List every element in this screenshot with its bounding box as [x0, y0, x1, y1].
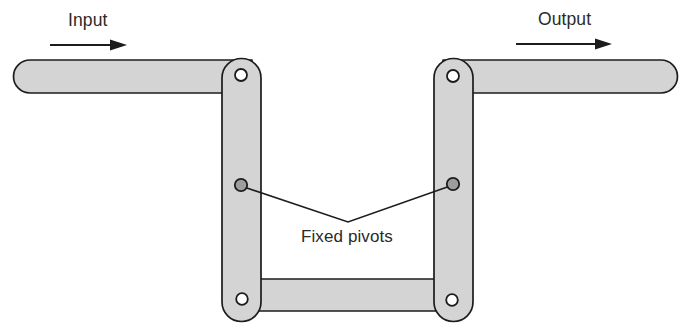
input-arrow-head	[110, 40, 127, 51]
linkage-diagram: Input Output Fixed pivots	[0, 0, 690, 334]
input-flow-arrow	[50, 40, 127, 51]
output-link	[443, 60, 678, 93]
pin-joints	[235, 69, 459, 306]
fixed-pivots-leader-line	[241, 185, 453, 222]
pin-joint-bottom-left-icon	[236, 293, 248, 305]
output-flow-arrow	[516, 39, 612, 50]
pin-joint-top-left-icon	[235, 69, 247, 81]
pin-joint-bottom-right-icon	[446, 294, 458, 306]
pin-joint-top-right-icon	[447, 70, 459, 82]
output-arrow-head	[595, 39, 612, 50]
fixed-pivots-label: Fixed pivots	[301, 228, 393, 245]
input-link	[14, 60, 253, 93]
coupler-link	[240, 279, 456, 311]
linkage-bars	[14, 59, 678, 322]
fixed-pivot-right-icon	[447, 178, 459, 190]
linkage-diagram-canvas	[0, 0, 690, 334]
input-label: Input	[68, 12, 107, 30]
fixed-pivots	[235, 178, 459, 191]
output-label: Output	[538, 11, 591, 29]
fixed-pivot-left-icon	[235, 179, 247, 191]
